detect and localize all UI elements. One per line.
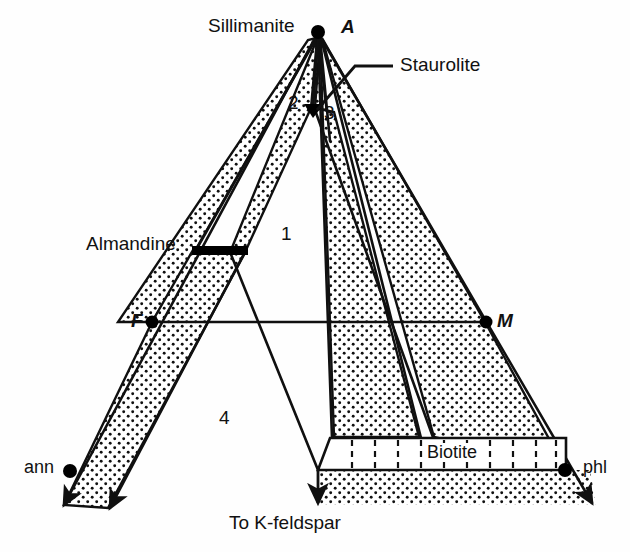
vertex-dot-ann (63, 464, 77, 478)
join-almandine-biotite (230, 252, 318, 470)
field-label-3: 3 (324, 103, 335, 122)
label-vertex-a: A (341, 17, 355, 36)
label-to-k-feldspar: To K-feldspar (229, 513, 341, 532)
field-label-2: 2 (288, 93, 299, 112)
label-biotite: Biotite (423, 443, 481, 461)
afm-phase-diagram-figure: Sillimanite A Staurolite Almandine F M 1… (0, 0, 630, 552)
field-strip-below-biotite (318, 470, 596, 505)
label-vertex-f: F (131, 311, 143, 330)
vertex-dot-phl (558, 463, 572, 477)
vertex-dot-m (480, 316, 493, 329)
field-label-1: 1 (281, 224, 292, 243)
label-phlogopite: phl (583, 458, 607, 476)
almandine-solid-bar (192, 246, 248, 255)
vertex-dot-a (311, 25, 325, 39)
field-label-4: 4 (219, 408, 230, 427)
label-vertex-m: M (497, 311, 513, 330)
vertex-dot-f (146, 316, 159, 329)
label-staurolite: Staurolite (400, 55, 480, 74)
label-sillimanite: Sillimanite (208, 16, 295, 35)
diagram-canvas (0, 0, 630, 552)
label-annite: ann (24, 458, 54, 476)
label-almandine: Almandine (86, 234, 176, 253)
